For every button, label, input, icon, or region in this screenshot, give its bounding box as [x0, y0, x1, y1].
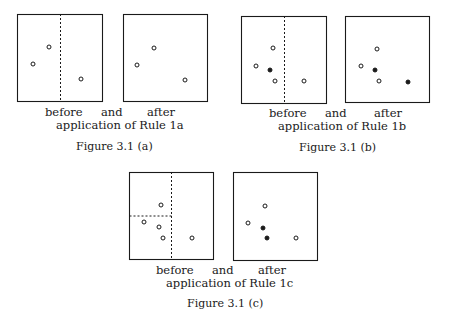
- open-point-icon: [359, 64, 363, 68]
- open-point-icon: [263, 204, 267, 208]
- panel-frame: [346, 17, 430, 103]
- filled-point-icon: [261, 226, 265, 230]
- fig-a-application-label: application of Rule 1a: [56, 119, 184, 132]
- open-point-icon: [377, 79, 381, 83]
- open-point-icon: [159, 203, 163, 207]
- fig-a-after-panel: [124, 15, 208, 102]
- fig-a-caption: Figure 3.1 (a): [76, 140, 153, 153]
- filled-point-icon: [373, 68, 377, 72]
- open-point-icon: [246, 221, 250, 225]
- open-point-icon: [183, 78, 187, 82]
- fig-b-after-panel: [346, 17, 430, 103]
- open-point-icon: [79, 77, 83, 81]
- open-point-icon: [157, 225, 161, 229]
- open-point-icon: [190, 236, 194, 240]
- open-point-icon: [31, 62, 35, 66]
- fig-c-application-label: application of Rule 1c: [166, 277, 293, 290]
- fig-a-before-panel: [18, 14, 103, 102]
- filled-point-icon: [268, 68, 272, 72]
- open-point-icon: [302, 79, 306, 83]
- open-point-icon: [271, 46, 275, 50]
- panel-frame: [124, 15, 208, 102]
- open-point-icon: [375, 47, 379, 51]
- fig-b-before-panel: [242, 16, 327, 104]
- open-point-icon: [254, 64, 258, 68]
- fig-c-caption: Figure 3.1 (c): [187, 297, 263, 310]
- fig-b-application-label: application of Rule 1b: [278, 120, 406, 133]
- open-point-icon: [135, 63, 139, 67]
- panel-frame: [234, 173, 318, 261]
- open-point-icon: [47, 45, 51, 49]
- fig-b-caption: Figure 3.1 (b): [299, 141, 376, 154]
- open-point-icon: [142, 220, 146, 224]
- fig-c-before-panel: [130, 172, 214, 260]
- filled-point-icon: [265, 236, 269, 240]
- fig-c-after-panel: [234, 173, 318, 261]
- open-point-icon: [273, 79, 277, 83]
- open-point-icon: [294, 236, 298, 240]
- filled-point-icon: [406, 80, 410, 84]
- open-point-icon: [152, 46, 156, 50]
- open-point-icon: [161, 236, 165, 240]
